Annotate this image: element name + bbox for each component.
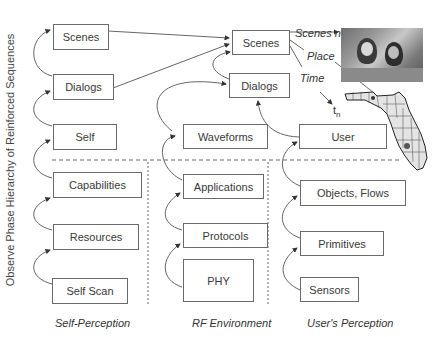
box-phy: PHY [183,259,254,302]
box-waveforms: Waveforms [183,124,268,149]
florida-map-icon [343,88,431,172]
box-primitives: Primitives [300,231,384,256]
box-sensors: Sensors [300,277,359,302]
annotation-place: Place [307,50,335,62]
annotation-t-n: tn [333,104,341,119]
box-self: Self [53,124,117,150]
box-resources: Resources [53,224,139,250]
column-label-users-perception: User's Perception [307,317,393,329]
box-dialogs-shared: Dialogs [229,73,290,98]
box-self-scan: Self Scan [52,278,128,304]
box-scenes-self: Scenes [53,24,109,50]
annotation-scenes-n: Scenes n [295,27,341,39]
box-capabilities: Capabilities [53,172,142,198]
photo-image [341,28,423,82]
y-axis-label: Observe Phase Hierarchy of Reinforced Se… [4,34,16,287]
box-protocols: Protocols [183,223,268,248]
box-scenes-shared: Scenes [232,30,290,55]
box-dialogs-self: Dialogs [53,74,114,100]
column-label-rf-environment: RF Environment [192,317,271,329]
annotation-time: Time [300,72,324,84]
box-applications: Applications [183,174,264,199]
box-objects-flows: Objects, Flows [300,180,406,206]
column-label-self-perception: Self-Perception [55,317,130,329]
